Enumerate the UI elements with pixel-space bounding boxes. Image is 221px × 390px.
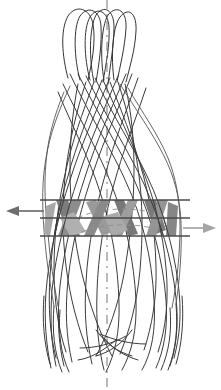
free-end-2 <box>59 310 69 372</box>
band-overlay-wire-3 <box>86 76 176 298</box>
radial-force-right-arrow <box>183 223 216 233</box>
flare-wire-right-2 <box>128 88 180 308</box>
stent-diagram-svg <box>0 0 221 390</box>
arrow-left-head <box>6 206 19 216</box>
crown-loops-group <box>63 9 136 84</box>
free-wire-ends-group <box>43 296 183 372</box>
figure-root: Braided stent radial compression diagram <box>0 0 221 390</box>
radial-force-left-arrow <box>6 206 44 216</box>
flare-wire-left-1 <box>43 86 70 306</box>
arrow-right-head <box>203 223 216 233</box>
